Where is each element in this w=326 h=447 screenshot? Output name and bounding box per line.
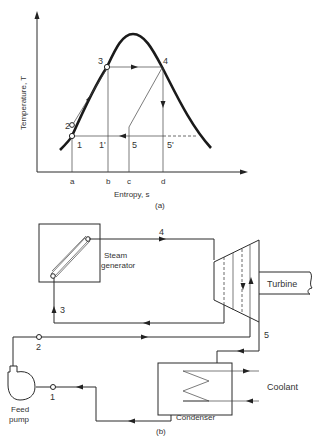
label-2: 2 <box>65 121 70 131</box>
y-axis-arrow-icon <box>35 11 40 19</box>
x-axis-arrow-icon <box>240 170 248 175</box>
x-tick-d: d <box>161 177 165 186</box>
label-5prime: 5' <box>167 140 174 150</box>
state-node-2 <box>70 123 75 128</box>
arrow-condensate-icon <box>128 419 135 424</box>
pipe-3 <box>54 278 224 323</box>
x-axis-label: Entropy, s <box>114 190 149 199</box>
x-tick-a: a <box>70 177 75 186</box>
feed-pump-label-line2: pump <box>9 415 30 424</box>
coolant-label: Coolant <box>267 382 299 392</box>
arrow-4-icon <box>159 237 166 242</box>
arrow-condense-icon <box>119 134 126 139</box>
turbine-arrow-down-icon <box>241 283 246 290</box>
saturation-dome <box>60 34 211 150</box>
steam-generator-label-line1: Steam <box>104 251 127 260</box>
turbine-arrow-up-icon <box>249 277 254 284</box>
feed-pump-label-line1: Feed <box>11 405 29 414</box>
arrow-4-5prime-icon <box>161 101 166 108</box>
arrow-5-icon <box>237 349 244 354</box>
arrow-3-icon <box>52 306 57 313</box>
shaft-end-break <box>308 272 312 294</box>
caption-a: (a) <box>155 201 165 210</box>
coolant-out-arrow-icon <box>243 369 250 374</box>
state-node-3 <box>104 64 109 69</box>
rankine-schematic: Steam generator 4 Turbine 3 2 5 <box>8 224 312 436</box>
x-tick-c: c <box>127 177 131 186</box>
node-1 <box>51 385 56 390</box>
pipe-1 <box>36 387 171 421</box>
label-3: 3 <box>98 56 103 66</box>
arrow-1-icon <box>76 385 83 390</box>
ts-diagram: 2 1 3 4 1' 5 5' a b c d Entropy, s Tempe… <box>19 11 248 210</box>
label-1: 1 <box>77 140 82 150</box>
label-1prime: 1' <box>99 140 106 150</box>
condenser-label: Condenser <box>176 413 215 422</box>
label-4: 4 <box>163 56 168 66</box>
line-4-to-5 <box>129 68 162 127</box>
steam-generator-label-line2: generator <box>101 261 136 270</box>
state-node-1 <box>69 133 74 138</box>
x-tick-b: b <box>106 177 111 186</box>
arrow-3-4-icon <box>131 65 138 70</box>
arrow-return-icon <box>143 321 150 326</box>
condenser-coil <box>183 371 259 401</box>
caption-b: (b) <box>156 427 166 436</box>
label-b-2: 2 <box>36 342 41 352</box>
coolant-in-arrow-icon <box>246 399 253 404</box>
label-b-3: 3 <box>60 305 65 315</box>
feed-pump-icon <box>8 366 35 400</box>
pipe-2 <box>13 318 250 366</box>
arrow-2-icon <box>141 335 148 340</box>
rankine-cycle-figure: 2 1 3 4 1' 5 5' a b c d Entropy, s Tempe… <box>0 0 326 447</box>
label-b-1: 1 <box>50 392 55 402</box>
label-5: 5 <box>132 140 137 150</box>
pipe-5 <box>217 322 259 363</box>
steam-generator-tubes <box>51 236 91 278</box>
label-b-4: 4 <box>159 227 164 237</box>
y-axis-label: Temperature, T <box>19 76 28 130</box>
node-2 <box>37 335 42 340</box>
label-b-5: 5 <box>264 330 269 340</box>
turbine-label: Turbine <box>267 279 297 289</box>
